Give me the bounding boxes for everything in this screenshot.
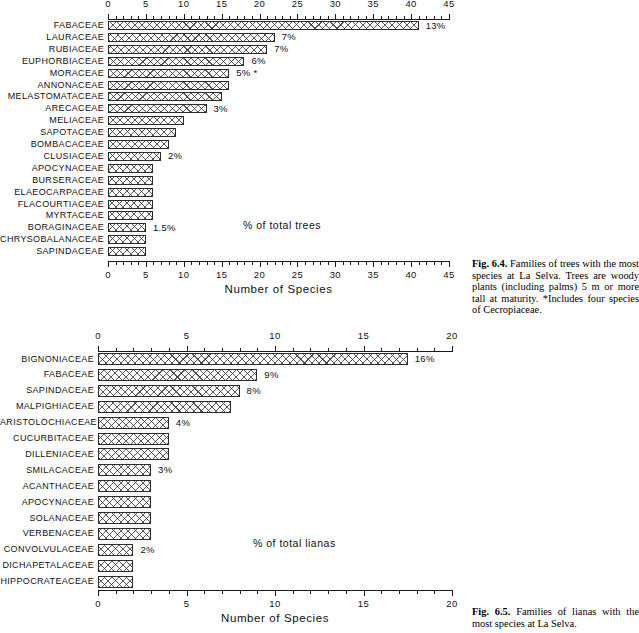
axis-tick-minor	[290, 16, 291, 19]
figure-6-4-caption: Fig. 6.4. Families of trees with the mos…	[472, 258, 639, 316]
axis-tick-minor	[388, 262, 389, 265]
x-axis-tick-label: 0	[88, 269, 128, 280]
axis-tick-minor	[151, 591, 152, 594]
bar	[108, 104, 207, 113]
axis-tick-minor	[417, 348, 418, 351]
axis-tick-minor	[214, 16, 215, 19]
axis-tick-minor	[366, 262, 367, 265]
axis-tick-major	[108, 262, 109, 267]
bar-value-label: 1.5%	[153, 223, 176, 233]
category-label: APOCYNACEAE	[0, 164, 104, 173]
category-label: ELAEOCARPACEAE	[0, 188, 104, 197]
axis-tick-minor	[191, 16, 192, 19]
axis-tick-major	[222, 14, 223, 19]
axis-tick-minor	[305, 16, 306, 19]
axis-tick-major	[222, 262, 223, 267]
axis-tick-minor	[310, 591, 311, 594]
axis-tick-minor	[199, 16, 200, 19]
bar	[98, 576, 133, 588]
category-label: SAPOTACEAE	[0, 128, 104, 137]
axis-tick-minor	[343, 262, 344, 265]
axis-tick-minor	[267, 16, 268, 19]
bar-value-label: 13%	[426, 21, 446, 31]
axis-tick-minor	[320, 16, 321, 19]
axis-tick-minor	[123, 16, 124, 19]
category-label: SOLANACEAE	[0, 514, 94, 523]
axis-tick-minor	[244, 16, 245, 19]
axis-tick-minor	[237, 16, 238, 19]
axis-tick-minor	[161, 16, 162, 19]
bar	[98, 480, 151, 492]
bar	[108, 45, 267, 54]
category-label: MYRTACEAE	[0, 211, 104, 220]
axis-tick-minor	[434, 16, 435, 19]
axis-tick-major	[275, 346, 276, 351]
axis-tick-minor	[310, 348, 311, 351]
bar	[108, 81, 229, 90]
bar-value-label: 7%	[282, 32, 296, 42]
axis-tick-minor	[229, 262, 230, 265]
axis-tick-minor	[396, 16, 397, 19]
axis-tick-minor	[169, 348, 170, 351]
category-label: ARISTOLOCHIACEAE	[0, 418, 94, 427]
bar	[108, 164, 153, 173]
axis-tick-minor	[328, 348, 329, 351]
axis-tick-major	[275, 591, 276, 596]
axis-tick-minor	[204, 591, 205, 594]
axis-tick-minor	[257, 591, 258, 594]
axis-tick-minor	[350, 262, 351, 265]
bar	[98, 544, 133, 556]
bar	[108, 92, 222, 101]
axis-tick-minor	[358, 262, 359, 265]
x-axis-tick-label: 5	[126, 0, 166, 9]
axis-tick-minor	[169, 16, 170, 19]
axis-tick-major	[260, 14, 261, 19]
x-axis-tick-label: 15	[344, 330, 384, 341]
axis-tick-minor	[426, 16, 427, 19]
axis-tick-minor	[257, 348, 258, 351]
axis-tick-minor	[229, 16, 230, 19]
axis-tick-major	[364, 346, 365, 351]
axis-tick-minor	[396, 262, 397, 265]
axis-tick-minor	[350, 16, 351, 19]
bar-value-label: 5% *	[236, 68, 257, 78]
axis-tick-minor	[313, 16, 314, 19]
x-axis-tick-label: 0	[78, 330, 118, 341]
axis-tick-minor	[222, 591, 223, 594]
x-axis-title: Number of Species	[68, 283, 489, 295]
axis-tick-major	[373, 262, 374, 267]
x-axis-tick-label: 35	[353, 269, 393, 280]
category-label: HIPPOCRATEACEAE	[0, 577, 94, 586]
axis-tick-minor	[434, 591, 435, 594]
axis-tick-minor	[204, 348, 205, 351]
axis-tick-major	[146, 262, 147, 267]
axis-tick-minor	[381, 262, 382, 265]
axis-tick-minor	[161, 262, 162, 265]
axis-tick-minor	[252, 262, 253, 265]
axis-tick-major	[411, 14, 412, 19]
x-axis-title: Number of Species	[58, 612, 492, 624]
axis-tick-major	[335, 262, 336, 267]
bar	[108, 152, 161, 161]
axis-tick-minor	[275, 16, 276, 19]
category-label: BIGNONIACEAE	[0, 355, 94, 364]
figure-trees-bar-chart: 051015202530354045051015202530354045FABA…	[0, 0, 470, 310]
axis-tick-minor	[133, 591, 134, 594]
category-label: DICHAPETALACEAE	[0, 561, 94, 570]
bar-value-label: 4%	[176, 418, 190, 428]
x-axis-tick-label: 25	[277, 0, 317, 9]
bar-value-label: 3%	[214, 104, 228, 114]
axis-tick-minor	[441, 16, 442, 19]
x-axis-tick-label: 20	[240, 269, 280, 280]
axis-tick-major	[98, 591, 99, 596]
bar	[108, 57, 244, 66]
axis-tick-major	[452, 591, 453, 596]
category-label: ARECACEAE	[0, 104, 104, 113]
category-label: MELASTOMATACEAE	[0, 92, 104, 101]
axis-tick-minor	[153, 262, 154, 265]
category-label: DILLENIACEAE	[0, 450, 94, 459]
axis-tick-minor	[328, 262, 329, 265]
axis-tick-minor	[116, 348, 117, 351]
axis-tick-minor	[399, 348, 400, 351]
bar	[108, 69, 229, 78]
